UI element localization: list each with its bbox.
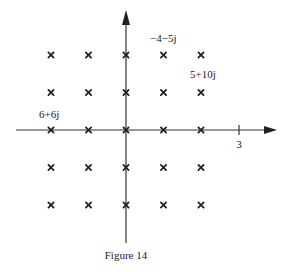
- lattice-point-mark: [86, 52, 91, 57]
- lattice-point-mark: [86, 165, 91, 170]
- imaginary-axis-arrow-icon: [122, 10, 130, 25]
- real-axis-arrow-icon: [264, 126, 277, 134]
- lattice-point-mark: [48, 202, 53, 207]
- figure-caption: Figure 14: [105, 249, 148, 261]
- lattice-point-mark: [48, 52, 53, 57]
- annotation-label: 6+6j: [39, 108, 59, 120]
- annotations: −4−5j 5+10j 6+6j: [39, 32, 216, 120]
- lattice-point-mark: [86, 202, 91, 207]
- lattice-point-mark: [161, 52, 166, 57]
- axes: 3: [16, 10, 277, 243]
- annotation-label: −4−5j: [150, 32, 176, 44]
- lattice-point-mark: [161, 202, 166, 207]
- lattice-point-mark: [48, 90, 53, 95]
- lattice-point-mark: [86, 90, 91, 95]
- lattice-point-mark: [161, 90, 166, 95]
- annotation-label: 5+10j: [190, 68, 216, 80]
- complex-plane-diagram: 3 −4−5j 5+10j 6+6j Figure 14: [0, 0, 291, 272]
- x-tick-label: 3: [236, 138, 242, 150]
- lattice-point-mark: [198, 52, 203, 57]
- lattice-point-mark: [198, 165, 203, 170]
- lattice-point-mark: [48, 165, 53, 170]
- lattice-point-mark: [198, 202, 203, 207]
- lattice-point-mark: [161, 165, 166, 170]
- lattice-point-mark: [198, 90, 203, 95]
